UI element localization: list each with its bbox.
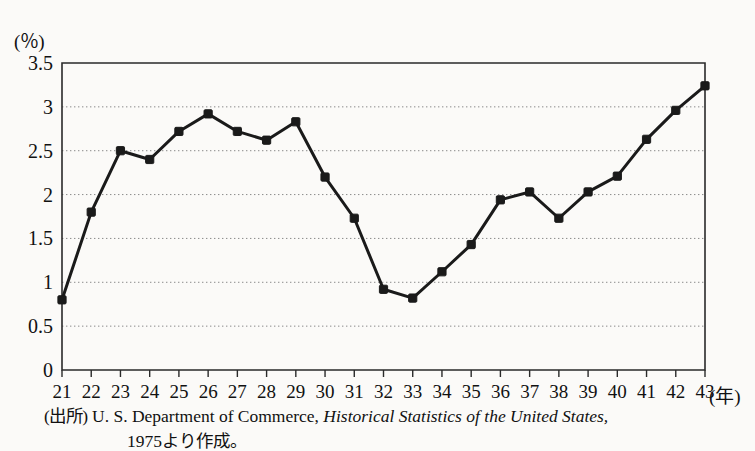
x-tick-label: 24	[140, 381, 159, 403]
data-point-marker	[175, 127, 183, 135]
x-tick-label: 21	[53, 381, 72, 403]
data-point-marker	[584, 188, 592, 196]
x-tick-label: 31	[345, 381, 364, 403]
x-tick-label: 42	[666, 381, 685, 403]
y-tick-label: 1	[43, 271, 53, 294]
x-tick-label: 32	[374, 381, 393, 403]
data-point-marker	[292, 118, 300, 126]
x-tick-label: 34	[432, 381, 451, 403]
y-tick-label: 3	[43, 95, 53, 118]
x-tick-label: 35	[462, 381, 481, 403]
data-point-marker	[555, 214, 563, 222]
chart-caption: (出所) U. S. Department of Commerce, Histo…	[44, 404, 608, 429]
data-point-marker	[262, 136, 270, 144]
data-point-marker	[321, 173, 329, 181]
data-point-marker	[701, 82, 709, 90]
caption-source-label: (出所)	[44, 406, 88, 426]
x-tick-label: 33	[403, 381, 422, 403]
data-point-marker	[233, 127, 241, 135]
x-tick-label: 40	[608, 381, 627, 403]
data-point-marker	[116, 147, 124, 155]
data-point-marker	[204, 110, 212, 118]
x-tick-label: 39	[579, 381, 598, 403]
x-tick-label: 27	[228, 381, 247, 403]
data-line	[62, 86, 705, 300]
y-tick-label: 0	[43, 359, 53, 382]
y-tick-label: 2.5	[28, 139, 53, 162]
x-tick-label: 38	[549, 381, 568, 403]
x-tick-label: 28	[257, 381, 276, 403]
caption-source-text: U. S. Department of Commerce,	[92, 406, 319, 426]
data-point-marker	[58, 296, 66, 304]
data-point-marker	[526, 188, 534, 196]
data-point-marker	[672, 106, 680, 114]
data-point-marker	[467, 240, 475, 248]
figure-container: (％) 00.511.522.533.5 2122232425262728293…	[0, 0, 755, 451]
data-point-marker	[350, 214, 358, 222]
caption-second-line: 1975より作成。	[127, 427, 247, 451]
data-point-marker	[613, 172, 621, 180]
x-tick-label: 25	[169, 381, 188, 403]
x-tick-label: 23	[111, 381, 130, 403]
y-tick-label: 3.5	[28, 52, 53, 75]
x-tick-label: 29	[286, 381, 305, 403]
x-tick-label: 37	[520, 381, 539, 403]
y-tick-label: 2	[43, 183, 53, 206]
plot-frame	[62, 63, 705, 370]
y-tick-label: 1.5	[28, 227, 53, 250]
x-axis-unit-label: (年)	[709, 381, 741, 408]
data-point-marker	[379, 285, 387, 293]
x-tick-label: 26	[199, 381, 218, 403]
data-point-marker	[146, 155, 154, 163]
x-tick-label: 36	[491, 381, 510, 403]
y-tick-label: 0.5	[28, 315, 53, 338]
data-point-marker	[642, 135, 650, 143]
x-tick-label: 22	[82, 381, 101, 403]
data-point-marker	[438, 268, 446, 276]
x-tick-label: 41	[637, 381, 656, 403]
x-tick-label: 30	[316, 381, 335, 403]
data-point-marker	[496, 196, 504, 204]
caption-source-title: Historical Statistics of the United Stat…	[323, 406, 608, 426]
data-point-marker	[409, 294, 417, 302]
data-point-marker	[87, 208, 95, 216]
